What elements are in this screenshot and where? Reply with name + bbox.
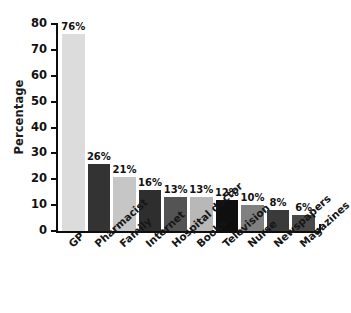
bar-value-label: 76% xyxy=(61,21,85,32)
x-axis-line xyxy=(56,231,321,233)
bar xyxy=(216,200,239,231)
bar xyxy=(190,197,213,231)
bar-value-label: 21% xyxy=(112,164,136,175)
bar-group: 13% xyxy=(190,24,213,231)
bar-value-label: 13% xyxy=(164,184,188,195)
y-tick-mark xyxy=(51,230,58,232)
bar-group: 21% xyxy=(113,24,136,231)
bar-group: 12% xyxy=(216,24,239,231)
bar-group: 16% xyxy=(139,24,162,231)
bar-group: 13% xyxy=(164,24,187,231)
bar-chart-figure: Percentage 80706050403020100 76%26%21%16… xyxy=(0,0,351,313)
y-tick-mark xyxy=(51,75,58,77)
plot-area: 76%26%21%16%13%13%12%10%8%6% xyxy=(58,24,321,231)
bar-value-label: 6% xyxy=(295,202,312,213)
y-tick-label: 30 xyxy=(13,145,47,159)
bar xyxy=(164,197,187,231)
y-tick-label: 80 xyxy=(13,16,47,30)
y-tick-label: 60 xyxy=(13,68,47,82)
y-tick-mark xyxy=(51,23,58,25)
y-tick-mark xyxy=(51,101,58,103)
bar-group: 6% xyxy=(292,24,315,231)
y-tick-label: 0 xyxy=(13,223,47,237)
y-tick-label: 70 xyxy=(13,42,47,56)
bar-value-label: 12% xyxy=(215,187,239,198)
bar xyxy=(88,164,111,231)
y-tick-label: 40 xyxy=(13,120,47,134)
y-tick-mark xyxy=(51,127,58,129)
y-tick-label: 10 xyxy=(13,197,47,211)
y-tick-mark xyxy=(51,204,58,206)
y-tick-label: 20 xyxy=(13,171,47,185)
bar xyxy=(241,205,264,231)
bar xyxy=(267,210,290,231)
bar-group: 10% xyxy=(241,24,264,231)
bar xyxy=(292,215,315,231)
bar-value-label: 8% xyxy=(270,197,287,208)
y-tick-mark xyxy=(51,178,58,180)
bar-group: 26% xyxy=(88,24,111,231)
bar xyxy=(62,34,85,231)
bar xyxy=(113,177,136,231)
bar-value-label: 26% xyxy=(87,151,111,162)
y-tick-mark xyxy=(51,152,58,154)
y-tick-label: 50 xyxy=(13,94,47,108)
bar-value-label: 10% xyxy=(240,192,264,203)
bar-value-label: 16% xyxy=(138,177,162,188)
bar-group: 76% xyxy=(62,24,85,231)
y-tick-mark xyxy=(51,49,58,51)
bar xyxy=(139,190,162,231)
bar-value-label: 13% xyxy=(189,184,213,195)
bar-group: 8% xyxy=(267,24,290,231)
